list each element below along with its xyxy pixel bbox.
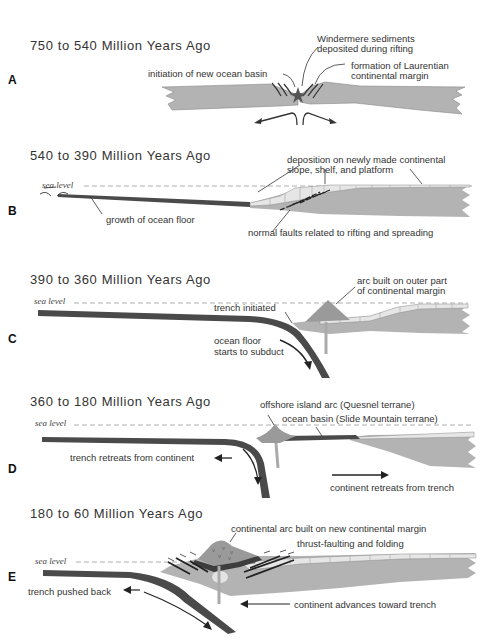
label-deposition-2: slope, shelf, and platform	[287, 164, 393, 175]
label-laurentian-2: continental margin	[351, 70, 429, 81]
svg-text:v: v	[212, 547, 215, 553]
panel-letter: D	[8, 462, 17, 476]
svg-text:v: v	[228, 555, 231, 561]
sea-level-label: sea level	[34, 296, 65, 306]
sea-level-label: sea level	[42, 180, 73, 190]
label-continent-retreats: continent retreats from trench	[330, 482, 454, 493]
label-ocean-floor-1: ocean floor	[214, 335, 261, 346]
label-continental-arc: continental arc built on new continental…	[231, 523, 426, 534]
label-ocean-floor-2: starts to subduct	[214, 346, 284, 357]
label-trench-retreats: trench retreats from continent	[70, 452, 194, 463]
label-initiation-ocean-basin: initiation of new ocean basin	[148, 68, 267, 79]
label-windermere-2: deposited during rifting	[317, 43, 413, 54]
label-quesnel: offshore island arc (Quesnel terrane)	[260, 399, 415, 410]
panel-title: 180 to 60 Million Years Ago	[30, 506, 203, 521]
panel-a: 750 to 540 Million Years Ago A Windermer…	[0, 0, 504, 130]
panel-e: vvv vv 180 to 60 Million Years	[0, 506, 504, 641]
label-continent-advances: continent advances toward trench	[294, 599, 436, 610]
panel-letter: A	[8, 73, 17, 87]
panel-letter: E	[8, 570, 16, 584]
label-trench-initiated: trench initiated	[214, 302, 276, 313]
label-thrust-faulting: thrust-faulting and folding	[297, 538, 404, 549]
panel-letter: C	[8, 332, 17, 346]
panel-c: 390 to 360 Million Years Ago C sea level…	[0, 260, 504, 388]
svg-text:v: v	[222, 545, 225, 551]
label-ocean-floor-growth: growth of ocean floor	[106, 214, 195, 225]
sea-level-label: sea level	[35, 556, 66, 566]
label-normal-faults: normal faults related to rifting and spr…	[248, 227, 433, 238]
panel-title: 360 to 180 Million Years Ago	[30, 394, 211, 409]
sea-level-label: sea level	[35, 418, 66, 428]
panel-title: 390 to 360 Million Years Ago	[30, 272, 211, 287]
label-arc-outer-2: of continental margin	[357, 285, 445, 296]
panel-b: 540 to 390 Million Years Ago B sea level…	[0, 130, 504, 260]
panel-letter: B	[8, 204, 17, 218]
svg-text:v: v	[218, 553, 221, 559]
label-slide-mountain: ocean basin (Slide Mountain terrane)	[282, 413, 438, 424]
label-trench-pushed-back: trench pushed back	[28, 586, 111, 597]
panel-d: 360 to 180 Million Years Ago D sea level…	[0, 388, 504, 506]
panel-title: 540 to 390 Million Years Ago	[30, 148, 211, 163]
panel-title: 750 to 540 Million Years Ago	[30, 38, 211, 53]
